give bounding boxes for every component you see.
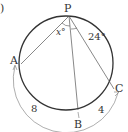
segment-PC <box>69 16 114 89</box>
segment-PB <box>69 16 78 110</box>
angle-label-x: x° <box>56 27 66 37</box>
arc-label-AB: 8 <box>31 103 37 114</box>
problem-number-mark: ) <box>0 2 4 15</box>
diagram-svg: ) P A B C x° 24° 8 4 <box>0 0 128 132</box>
label-C: C <box>115 82 123 95</box>
circle-geometry-diagram: ) P A B C x° 24° 8 4 <box>0 0 128 132</box>
angle-arc-x <box>62 23 70 26</box>
arc-label-BC: 4 <box>98 104 104 115</box>
outer-arc-AC <box>13 66 118 132</box>
label-B: B <box>74 118 82 131</box>
label-P: P <box>64 2 72 15</box>
label-A: A <box>9 54 19 67</box>
angle-label-24: 24° <box>88 31 106 42</box>
angle-arc-24 <box>71 28 77 29</box>
